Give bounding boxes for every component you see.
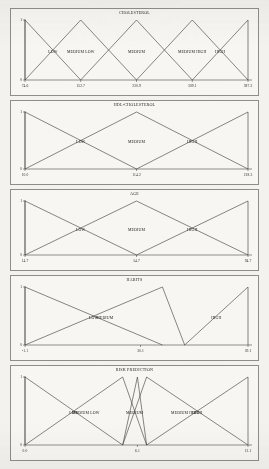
x-axis-tick-label: 114.2 [132,173,140,177]
y-axis-tick-label: 1 [20,375,22,379]
x-axis-tick-label: 309.1 [188,84,197,88]
plot-area [0,275,269,361]
chart-title: CHOLESTEROL [0,10,269,15]
scanned-page: CHOLESTEROLLOWMEDIUM LOWMEDIUMMEDIUM HIG… [0,0,269,469]
chart-block: HDL-CHOLESTEROLLOWMEDIUMHIGH10.0114.2218… [0,100,269,185]
x-axis-tick-label: 10.0 [22,173,29,177]
fuzzy-set-label: MEDIUM LOW [72,411,100,415]
fuzzy-set-label: LOW [48,50,57,54]
y-axis-tick-label: 1 [20,285,22,289]
fuzzy-set-label: HIGH [215,50,225,54]
fuzzy-set-label: LOW [76,228,85,232]
x-axis-tick-label: 387.2 [244,84,253,88]
x-axis-tick-label: 12.1 [245,449,252,453]
fuzzy-set-label: MEDIUM [128,50,145,54]
y-axis-tick-label: 1 [20,18,22,22]
x-axis-tick-label: 94.7 [245,259,252,263]
x-axis-tick-label: -1.1 [22,349,28,353]
y-axis-tick-label: 0 [20,253,22,257]
membership-function-chart-stack: CHOLESTEROLLOWMEDIUM LOWMEDIUMMEDIUM HIG… [0,0,269,469]
chart-title: HABITS [0,277,269,282]
y-axis-tick-label: 0 [20,167,22,171]
fuzzy-set-label: LOW [76,140,85,144]
chart-block: AGELOWMEDIUMHIGH14.754.794.701 [0,189,269,271]
x-axis-tick-label: 59.1 [245,349,252,353]
y-axis-tick-label: 1 [20,199,22,203]
y-axis-tick-label: 1 [20,110,22,114]
fuzzy-set-label: MEDIUM [128,228,145,232]
fuzzy-set-label: HIGH [187,228,197,232]
chart-block: CHOLESTEROLLOWMEDIUM LOWMEDIUMMEDIUM HIG… [0,8,269,96]
x-axis-tick-label: 54.7 [133,259,140,263]
fuzzy-set-label: MEDIUM [126,411,143,415]
x-axis-tick-label: 14.7 [22,259,29,263]
y-axis-tick-label: 0 [20,443,22,447]
x-axis-tick-label: 30.1 [137,349,144,353]
chart-title: AGE [0,191,269,196]
chart-block: HABITSLOWMEDIUMHIGH-1.130.159.101 [0,275,269,361]
x-axis-tick-label: 152.7 [76,84,85,88]
x-axis-tick-label: 218.3 [244,173,253,177]
fuzzy-set-label: MEDIUM [96,316,113,320]
chart-block: RISK PREDICTIONLOWMEDIUM LOWMEDIUMMEDIUM… [0,365,269,461]
fuzzy-set-label: HIGH [187,140,197,144]
chart-title: RISK PREDICTION [0,367,269,372]
y-axis-tick-label: 0 [20,78,22,82]
fuzzy-set-label: HIGH [192,411,202,415]
x-axis-tick-label: 6.1 [135,449,140,453]
x-axis-tick-label: 0.0 [23,449,28,453]
fuzzy-set-label: HIGH [211,316,221,320]
x-axis-tick-label: 230.9 [132,84,141,88]
fuzzy-set-label: MEDIUM LOW [67,50,95,54]
chart-title: HDL-CHOLESTEROL [0,102,269,107]
y-axis-tick-label: 0 [20,343,22,347]
fuzzy-set-label: MEDIUM HIGH [178,50,207,54]
x-axis-tick-label: 74.6 [22,84,29,88]
fuzzy-set-label: MEDIUM [128,140,145,144]
